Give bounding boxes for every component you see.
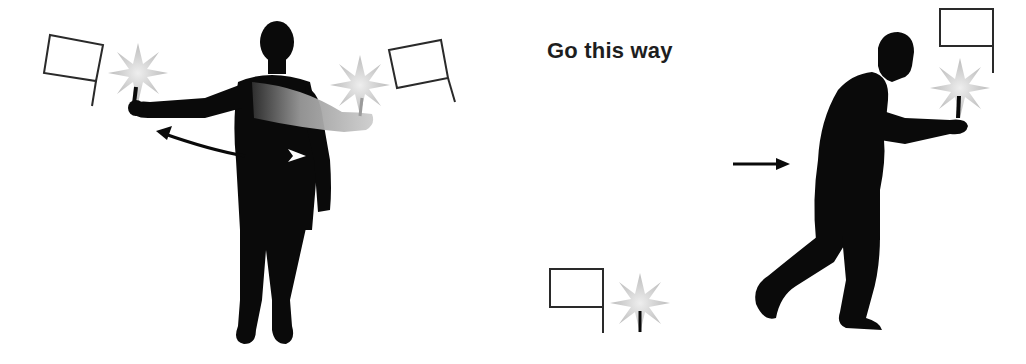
walking-silhouette bbox=[755, 32, 968, 330]
flag-icon-top bbox=[940, 9, 993, 73]
left-figure-group bbox=[44, 21, 455, 344]
legend-flag-icon bbox=[550, 269, 603, 333]
standing-silhouette bbox=[128, 21, 331, 344]
signal-illustration bbox=[0, 0, 1026, 364]
flag-icon-right bbox=[389, 40, 455, 102]
flag-icon-left bbox=[44, 35, 103, 106]
flare-icon-left bbox=[108, 43, 168, 103]
direction-arrow-icon bbox=[733, 158, 790, 170]
figure-caption: Go this way bbox=[547, 38, 673, 64]
